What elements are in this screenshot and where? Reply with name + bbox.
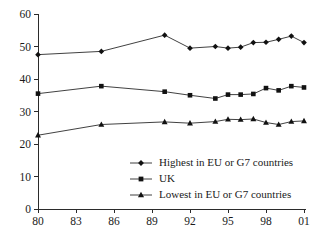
legend-item-2: UK	[130, 172, 175, 184]
diamond-marker	[238, 44, 244, 50]
y-tick-label: 10	[20, 171, 32, 183]
square-marker	[264, 86, 269, 91]
x-tick-label: 83	[70, 215, 82, 227]
x-tick-label: 89	[146, 215, 158, 227]
square-marker	[251, 92, 256, 97]
square-marker	[238, 92, 243, 97]
y-tick-label: 50	[20, 41, 32, 53]
x-tick-label: 95	[222, 215, 234, 227]
y-tick-label: 30	[20, 106, 32, 118]
series-1	[35, 32, 307, 57]
square-marker	[139, 177, 144, 182]
series-line	[38, 119, 304, 135]
diamond-marker	[263, 39, 269, 45]
diamond-marker	[212, 44, 218, 50]
x-tick-label: 92	[184, 215, 196, 227]
diamond-marker	[162, 32, 168, 38]
series-line	[38, 35, 304, 55]
y-axis: 0102030405060	[20, 8, 39, 215]
diamond-marker	[250, 40, 256, 46]
diamond-marker	[288, 33, 294, 39]
legend-item-3: Lowest in EU or G7 countries	[130, 188, 291, 200]
diamond-marker	[301, 40, 307, 46]
y-tick-label: 40	[20, 73, 32, 85]
triangle-marker	[162, 119, 168, 124]
square-marker	[289, 84, 294, 89]
legend-item-1: Highest in EU or G7 countries	[130, 156, 293, 168]
diamond-marker	[187, 45, 193, 51]
diamond-marker	[225, 45, 231, 51]
triangle-marker	[301, 118, 307, 123]
diamond-marker	[35, 52, 41, 58]
diamond-marker	[98, 49, 104, 55]
x-tick-label: 98	[260, 215, 272, 227]
y-tick-label: 0	[25, 203, 31, 215]
square-marker	[226, 92, 231, 97]
line-chart: 0102030405060 8083868992959801 Highest i…	[0, 0, 324, 239]
x-axis: 8083868992959801	[32, 209, 310, 227]
chart-legend: Highest in EU or G7 countriesUKLowest in…	[130, 156, 293, 200]
square-marker	[162, 89, 167, 94]
series-2	[36, 84, 307, 101]
y-tick-label: 60	[20, 8, 32, 20]
square-marker	[276, 88, 281, 93]
triangle-marker	[250, 116, 256, 121]
square-marker	[99, 84, 104, 89]
legend-label: Highest in EU or G7 countries	[159, 156, 293, 168]
triangle-marker	[225, 116, 231, 121]
square-marker	[213, 96, 218, 101]
legend-label: UK	[159, 172, 175, 184]
legend-label: Lowest in EU or G7 countries	[159, 188, 291, 200]
diamond-marker	[138, 160, 144, 166]
triangle-marker	[138, 192, 144, 198]
diamond-marker	[276, 37, 282, 43]
series-layer	[35, 32, 307, 137]
square-marker	[36, 91, 41, 96]
x-tick-label: 80	[32, 215, 44, 227]
x-tick-label: 86	[108, 215, 120, 227]
chart-canvas: 0102030405060 8083868992959801 Highest i…	[0, 0, 324, 239]
x-tick-label: 01	[298, 215, 310, 227]
square-marker	[302, 85, 307, 90]
square-marker	[188, 93, 193, 98]
series-3	[35, 116, 307, 138]
y-tick-label: 20	[20, 138, 32, 150]
